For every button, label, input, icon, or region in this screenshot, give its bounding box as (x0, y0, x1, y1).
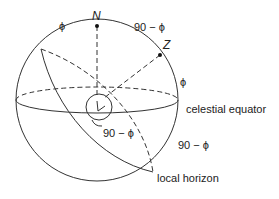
ninety-minus-phi-top-label: 90 − ϕ (134, 21, 165, 33)
observer-circle (86, 94, 112, 120)
phi-right-label: ϕ (180, 76, 186, 88)
ninety-minus-phi-center-label: 90 − ϕ (103, 127, 134, 139)
zenith-point (158, 53, 162, 57)
ninety-minus-phi-right-label: 90 − ϕ (178, 139, 209, 151)
phi-top-left-label: ϕ (59, 20, 65, 32)
celestial-equator-label: celestial equator (186, 103, 266, 115)
zenith-label: Z (162, 38, 171, 52)
zenith-line (104, 55, 160, 98)
local-horizon-label: local horizon (157, 172, 219, 184)
observer-mark (97, 101, 105, 111)
celestial-sphere-diagram: N Z ϕ 90 − ϕ ϕ 90 − ϕ 90 − ϕ celestial e… (0, 0, 279, 199)
north-pole-point (95, 24, 99, 28)
north-pole-label: N (92, 9, 101, 23)
angle-arc (92, 120, 102, 126)
